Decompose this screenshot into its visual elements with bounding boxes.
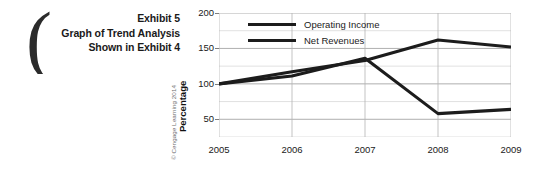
y-tick-label: 100 [188,79,214,89]
legend-label-net-revenues: Net Revenues [304,34,364,48]
x-tick-label: 2005 [198,145,240,155]
x-tick-label: 2006 [271,145,313,155]
legend-item: Net Revenues [248,34,398,48]
caption-line-2: Graph of Trend Analysis [40,26,180,41]
caption-line-1: Exhibit 5 [40,11,180,26]
caption-block: ( Exhibit 5 Graph of Trend Analysis Show… [0,0,186,171]
x-tick-label: 2008 [417,145,459,155]
legend-item: Operating Income [248,18,398,32]
y-tick-mark [215,48,219,49]
y-tick-mark [215,13,219,14]
legend-swatch-operating-income [248,23,296,26]
chart-legend: Operating Income Net Revenues [248,18,398,50]
caption-line-3: Shown in Exhibit 4 [40,40,180,55]
legend-swatch-net-revenues [248,39,296,42]
y-tick-label: 50 [188,114,214,124]
exhibit-figure: ( Exhibit 5 Graph of Trend Analysis Show… [0,0,549,171]
exhibit-caption: Exhibit 5 Graph of Trend Analysis Shown … [40,11,180,55]
legend-label-operating-income: Operating Income [304,18,380,32]
x-tick-label: 2009 [490,145,532,155]
y-tick-label: 200 [188,8,214,18]
y-tick-label: 150 [188,43,214,53]
y-tick-mark [215,84,219,85]
y-tick-mark [215,119,219,120]
x-tick-label: 2007 [344,145,386,155]
